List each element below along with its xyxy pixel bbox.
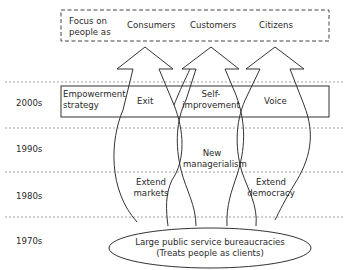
arrows	[114, 47, 310, 226]
decade-1980s: 1980s	[16, 191, 42, 202]
arrow-consumers	[114, 47, 182, 226]
extend-democracy-line2: democracy	[246, 188, 296, 199]
citizens-label: Citizens	[259, 20, 293, 31]
focus-label: Focus on people as	[69, 16, 111, 38]
decade-2000s: 2000s	[16, 98, 42, 109]
exit-label: Exit	[137, 96, 153, 107]
customers-label: Customers	[190, 20, 236, 31]
decade-1990s: 1990s	[16, 144, 42, 155]
new-managerialism-line1: New	[183, 148, 241, 159]
voice-label: Voice	[264, 96, 287, 107]
self-improvement-label: Self- improvement	[182, 89, 240, 111]
arrow-citizens	[237, 47, 310, 226]
extend-markets-line1: Extend	[132, 177, 170, 188]
focus-label-line2: people as	[69, 27, 111, 38]
base-label: Large public service bureaucracies (Trea…	[130, 237, 290, 259]
self-improvement-line1: Self-	[182, 89, 240, 100]
extend-democracy-line1: Extend	[246, 177, 296, 188]
extend-democracy-label: Extend democracy	[246, 177, 296, 199]
decade-1970s: 1970s	[16, 236, 42, 247]
diagram-canvas	[0, 0, 346, 270]
empowerment-label-line2: strategy	[63, 100, 126, 111]
new-managerialism-label: New managerialism	[183, 148, 241, 170]
empowerment-label: Empowerment strategy	[63, 89, 126, 111]
base-label-line1: Large public service bureaucracies	[130, 237, 290, 248]
extend-markets-line2: markets	[132, 188, 170, 199]
empowerment-label-line1: Empowerment	[63, 89, 126, 100]
extend-markets-label: Extend markets	[132, 177, 170, 199]
self-improvement-line2: improvement	[182, 100, 240, 111]
base-label-line2: (Treats people as clients)	[130, 248, 290, 259]
focus-label-line1: Focus on	[69, 16, 111, 27]
new-managerialism-line2: managerialism	[183, 159, 241, 170]
consumers-label: Consumers	[127, 20, 175, 31]
